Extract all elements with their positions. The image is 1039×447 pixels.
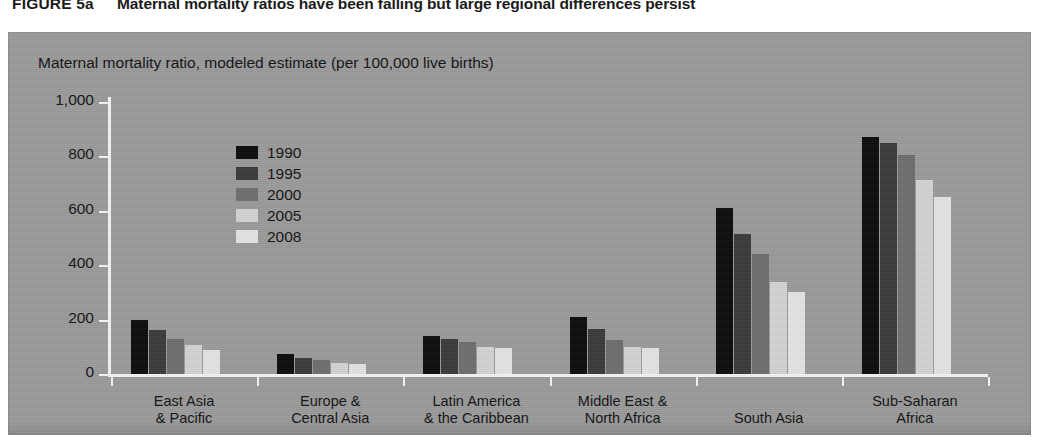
- bar-1990-3: [570, 317, 587, 374]
- x-separator: [550, 377, 552, 386]
- bar-2000-0: [167, 339, 184, 374]
- bar-group: [842, 102, 988, 374]
- y-tick-label: 600: [68, 200, 94, 218]
- x-category-line: Latin America: [403, 393, 549, 410]
- bar-2000-3: [606, 340, 623, 374]
- legend-label-2005: 2005: [267, 207, 301, 225]
- legend-swatch-1995: [236, 167, 258, 180]
- bar-2008-0: [203, 350, 220, 374]
- bar-1990-5: [862, 137, 879, 374]
- bar-2000-2: [459, 342, 476, 374]
- figure-number: FIGURE 5a: [12, 0, 94, 13]
- legend-item: 2008: [236, 226, 301, 247]
- x-separator: [988, 377, 990, 386]
- bar-1990-4: [716, 208, 733, 374]
- bar-2008-4: [788, 292, 805, 374]
- legend-swatch-2008: [236, 230, 258, 243]
- legend-swatch-2000: [236, 188, 258, 201]
- legend-label-1990: 1990: [267, 144, 301, 162]
- legend-item: 1995: [236, 163, 301, 184]
- legend-label-2000: 2000: [267, 186, 301, 204]
- bar-2008-1: [349, 364, 366, 374]
- bar-2008-3: [642, 348, 659, 374]
- bar-1995-5: [880, 143, 897, 374]
- x-category-line: East Asia: [111, 393, 257, 410]
- bar-2005-0: [185, 345, 202, 374]
- y-tick: [99, 211, 109, 213]
- bar-2000-1: [313, 360, 330, 374]
- x-category-line: Sub-Saharan: [842, 393, 988, 410]
- bar-1995-1: [295, 358, 312, 374]
- legend-swatch-1990: [236, 146, 258, 159]
- legend-item: 2005: [236, 205, 301, 226]
- bar-2008-2: [495, 348, 512, 374]
- figure-title: Maternal mortality ratios have been fall…: [117, 0, 695, 13]
- y-tick-label: 400: [68, 254, 94, 272]
- bar-group: [696, 102, 842, 374]
- legend: 1990 1995 2000 2005 2008: [236, 142, 301, 247]
- panel-shade: [8, 421, 1031, 435]
- bar-2005-4: [770, 282, 787, 374]
- bar-2005-2: [477, 347, 494, 374]
- bar-2005-5: [916, 180, 933, 374]
- x-separator: [842, 377, 844, 386]
- bar-1995-4: [734, 234, 751, 374]
- bar-1990-2: [423, 336, 440, 374]
- bar-1990-1: [277, 354, 294, 374]
- x-axis-line: [108, 374, 988, 377]
- bar-1995-2: [441, 339, 458, 374]
- y-axis-labels: 02004006008001,000: [8, 32, 94, 435]
- y-tick: [99, 102, 109, 104]
- bar-2000-5: [898, 155, 915, 374]
- bar-group: [550, 102, 696, 374]
- bar-1995-3: [588, 329, 605, 374]
- bar-2005-1: [331, 363, 348, 374]
- legend-swatch-2005: [236, 209, 258, 222]
- bar-2000-4: [752, 254, 769, 374]
- y-tick-label: 0: [85, 363, 94, 381]
- legend-item: 2000: [236, 184, 301, 205]
- x-category-line: Europe &: [257, 393, 403, 410]
- x-separator: [111, 377, 113, 386]
- y-tick-label: 1,000: [55, 91, 94, 109]
- y-tick-label: 200: [68, 309, 94, 327]
- y-tick: [99, 320, 109, 322]
- legend-label-2008: 2008: [267, 228, 301, 246]
- x-separator: [257, 377, 259, 386]
- bar-group: [403, 102, 549, 374]
- page-bottom-margin: [0, 435, 1039, 447]
- bar-2005-3: [624, 347, 641, 374]
- y-tick-label: 800: [68, 145, 94, 163]
- plot-area: 02004006008001,000 East Asia& PacificEur…: [8, 32, 1031, 435]
- bar-2008-5: [934, 197, 951, 374]
- bar-1990-0: [131, 320, 148, 374]
- chart-panel: Maternal mortality ratio, modeled estima…: [8, 32, 1031, 435]
- legend-item: 1990: [236, 142, 301, 163]
- bar-1995-0: [149, 330, 166, 374]
- x-category-line: Middle East &: [550, 393, 696, 410]
- x-separator: [696, 377, 698, 386]
- y-tick: [99, 156, 109, 158]
- y-tick: [99, 265, 109, 267]
- legend-label-1995: 1995: [267, 165, 301, 183]
- x-separator: [403, 377, 405, 386]
- y-tick: [99, 374, 109, 376]
- figure-heading: FIGURE 5a Maternal mortality ratios have…: [0, 0, 1039, 22]
